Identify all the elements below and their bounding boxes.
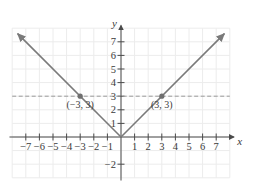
absolute-value-graph: (−3, 3)(3, 3) −7−6−5−4−3−2−1123456776543… [0,0,255,190]
x-axis-label: x [236,135,242,147]
y-tick-label: 2 [111,104,116,115]
point-label: (−3, 3) [67,99,94,111]
x-tick-label: −3 [75,141,86,152]
y-tick-label: 3 [111,91,116,102]
x-tick-label: 1 [132,141,137,152]
axes [9,25,233,180]
point-label: (3, 3) [151,99,173,111]
x-tick-label: 4 [173,141,179,152]
y-tick-label: 6 [111,50,116,61]
x-tick-label: −5 [47,141,58,152]
point-marker [78,94,83,99]
x-tick-label: −7 [20,141,31,152]
x-tick-label: 5 [186,141,191,152]
point-marker [159,94,164,99]
curve-right-branch [121,34,224,137]
y-tick-label: 1 [111,118,116,129]
x-tick-label: 6 [200,141,205,152]
curve-left-branch [18,34,121,137]
y-tick-label: −2 [105,159,116,170]
y-axis-label: y [111,17,117,29]
y-tick-label: 4 [111,77,117,88]
y-tick-label: 7 [111,36,116,47]
x-tick-label: −1 [102,141,113,152]
y-tick-label: 5 [111,64,116,75]
x-tick-label: 2 [146,141,151,152]
x-tick-label: −6 [34,141,45,152]
x-tick-label: 7 [214,141,219,152]
x-tick-label: −4 [61,141,73,152]
tick-labels: −7−6−5−4−3−2−112345677654321−2xy [20,17,242,170]
x-tick-label: −2 [88,141,99,152]
x-tick-label: 3 [159,141,164,152]
